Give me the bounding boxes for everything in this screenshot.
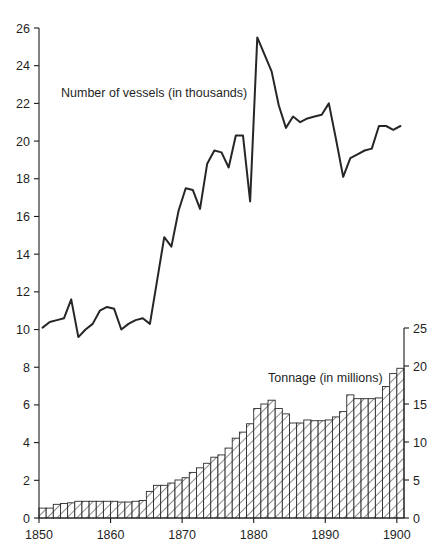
tonnage-bar	[53, 504, 60, 518]
tonnage-bar	[154, 485, 161, 518]
tonnage-bar	[232, 438, 239, 518]
vessels-series-label: Number of vessels (in thousands)	[61, 86, 247, 100]
tonnage-bars	[39, 368, 404, 518]
tonnage-bar	[103, 501, 110, 518]
tonnage-bar	[332, 417, 339, 518]
chart-figure: 0246810121416182022242618501860187018801…	[0, 0, 448, 548]
tonnage-bar	[325, 420, 332, 518]
tonnage-bar	[139, 501, 146, 518]
right-axis-tick-label: 15	[413, 398, 427, 412]
tonnage-bar	[211, 457, 218, 518]
left-axis-tick-label: 24	[16, 59, 30, 73]
right-axis-tick-label: 10	[413, 436, 427, 450]
tonnage-bar	[347, 395, 354, 518]
tonnage-bar	[361, 399, 368, 518]
right-axis-tick-label: 5	[413, 474, 420, 488]
tonnage-bar	[96, 501, 103, 518]
left-axis-tick-label: 4	[23, 436, 30, 450]
tonnage-bar	[397, 368, 404, 518]
bottom-axis-tick-label: 1880	[240, 528, 268, 542]
tonnage-bar	[268, 400, 275, 518]
left-axis-tick-label: 8	[23, 361, 30, 375]
tonnage-bar	[247, 424, 254, 518]
tonnage-bar	[189, 472, 196, 518]
tonnage-bar	[68, 503, 75, 518]
tonnage-bar	[82, 501, 89, 518]
tonnage-bar	[89, 501, 96, 518]
left-axis-tick-label: 20	[16, 135, 30, 149]
tonnage-bar	[168, 483, 175, 518]
bottom-axis-tick-label: 1860	[97, 528, 125, 542]
tonnage-bar	[60, 504, 67, 518]
tonnage-bar	[218, 455, 225, 518]
tonnage-bar	[275, 409, 282, 518]
bottom-axis-tick-label: 1900	[383, 528, 411, 542]
tonnage-bar	[239, 432, 246, 518]
left-axis-tick-label: 14	[16, 248, 30, 262]
tonnage-bar	[146, 491, 153, 518]
left-axis-tick-label: 6	[23, 398, 30, 412]
tonnage-bar	[182, 478, 189, 518]
tonnage-bar	[368, 399, 375, 518]
tonnage-bar	[261, 404, 268, 518]
left-axis-tick-label: 0	[23, 512, 30, 526]
tonnage-bar	[225, 448, 232, 518]
tonnage-bar	[318, 421, 325, 518]
tonnage-bar	[254, 409, 261, 518]
tonnage-bar	[196, 468, 203, 518]
bottom-axis-tick-label: 1890	[311, 528, 339, 542]
tonnage-bar	[354, 399, 361, 518]
left-axis-tick-label: 16	[16, 210, 30, 224]
tonnage-bar	[204, 463, 211, 518]
right-axis-tick-label: 25	[413, 322, 427, 336]
left-axis-tick-label: 18	[16, 172, 30, 186]
right-axis-tick-label: 0	[413, 512, 420, 526]
tonnage-bar	[390, 374, 397, 518]
tonnage-bar	[39, 508, 46, 518]
tonnage-bar	[297, 423, 304, 518]
tonnage-bar	[282, 414, 289, 518]
tonnage-bar	[311, 421, 318, 518]
tonnage-bar	[111, 501, 118, 518]
tonnage-bar	[340, 412, 347, 518]
bottom-axis-tick-label: 1870	[168, 528, 196, 542]
tonnage-series-label: Tonnage (in millions)	[268, 371, 383, 385]
left-axis-tick-label: 22	[16, 97, 30, 111]
tonnage-bar	[175, 480, 182, 518]
tonnage-bar	[304, 420, 311, 518]
left-axis-tick-label: 26	[16, 22, 30, 36]
tonnage-bar	[125, 502, 132, 518]
chart-canvas: 0246810121416182022242618501860187018801…	[0, 0, 448, 548]
tonnage-bar	[46, 508, 53, 518]
vessels-line-path	[43, 37, 401, 337]
tonnage-bar	[161, 485, 168, 518]
left-axis-tick-label: 10	[16, 323, 30, 337]
bottom-axis-tick-label: 1850	[25, 528, 53, 542]
tonnage-bar	[383, 387, 390, 518]
tonnage-bar	[75, 501, 82, 518]
vessels-line	[43, 37, 401, 337]
tonnage-bar	[375, 398, 382, 518]
left-axis-tick-label: 12	[16, 285, 30, 299]
left-axis-tick-label: 2	[23, 474, 30, 488]
tonnage-bar	[118, 502, 125, 518]
tonnage-bar	[289, 423, 296, 518]
right-axis-tick-label: 20	[413, 360, 427, 374]
tonnage-bar	[132, 501, 139, 518]
